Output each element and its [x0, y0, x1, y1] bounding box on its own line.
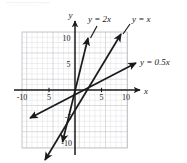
ytick-pos-10: 10 [63, 34, 71, 43]
xtick-neg-10: -10 [17, 93, 28, 102]
ytick-neg-10: -10 [61, 139, 72, 148]
annotation-line-x: y = x [131, 14, 151, 24]
graph-figure: y x y = 2x y = x y = 0.5x -10 5 5 10 10 … [0, 0, 187, 163]
scan-artifact [6, 2, 50, 6]
coordinate-plane-svg: y x y = 2x y = x y = 0.5x -10 5 5 10 10 … [0, 0, 187, 163]
xtick-pos-5: 5 [100, 93, 104, 102]
y-axis-label: y [68, 10, 73, 20]
xtick-pos-10: 10 [122, 93, 130, 102]
ytick-neg-5: -5 [65, 113, 72, 122]
annotation-line-2x: y = 2x [87, 14, 111, 24]
annotation-line-half-x: y = 0.5x [139, 57, 170, 67]
xtick-neg-5: 5 [47, 93, 51, 102]
x-axis-label: x [143, 86, 148, 96]
ytick-pos-5: 5 [67, 60, 71, 69]
